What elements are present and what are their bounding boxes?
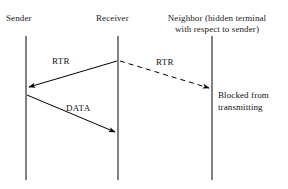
label-rtr-to-neighbor: RTR [156,57,174,67]
note-blocked-line1: Blocked from [218,90,269,100]
sequence-diagram: Sender Receiver Neighbor (hidden termina… [0,0,288,189]
note-blocked-line2: transmitting [218,102,263,112]
header-receiver: Receiver [96,13,129,24]
header-neighbor: Neighbor (hidden terminal with respect t… [148,13,286,34]
label-data: DATA [66,103,90,113]
note-blocked-from-transmitting: Blocked from transmitting [218,90,288,113]
label-rtr-to-sender: RTR [52,56,70,66]
arrow-data-to-receiver [27,95,115,132]
arrow-rtr-to-sender [29,61,117,87]
header-neighbor-line2: with respect to sender) [175,24,259,34]
header-neighbor-line1: Neighbor (hidden terminal [168,13,266,23]
header-sender: Sender [6,13,32,24]
